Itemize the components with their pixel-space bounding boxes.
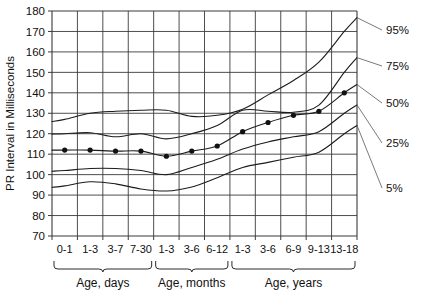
x-axis-tick-label: 6-12 — [206, 243, 228, 255]
legend-label-50pct: 50% — [386, 97, 409, 109]
y-axis-tick-label: 70 — [32, 230, 45, 242]
y-axis-tick-label: 80 — [32, 210, 45, 222]
legend-leader-line-50pct — [357, 85, 382, 103]
y-axis-tick-label: 180 — [26, 5, 45, 17]
group-label: Age, months — [158, 276, 225, 290]
y-axis-tick-label: 170 — [26, 26, 45, 38]
x-axis-tick-label: 7-30 — [130, 243, 152, 255]
legend-label-95pct: 95% — [386, 24, 409, 36]
data-point-marker — [88, 147, 93, 152]
data-point-marker — [138, 149, 143, 154]
chart-canvas: 708090100110120130140150160170180PR Inte… — [0, 0, 442, 290]
grid-lines: 708090100110120130140150160170180 — [26, 5, 357, 242]
data-point-marker — [291, 113, 296, 118]
data-point-marker — [164, 154, 169, 159]
data-point-marker — [240, 129, 245, 134]
legend-label-5pct: 5% — [386, 182, 403, 194]
x-axis-labels: 0-11-33-77-301-33-66-121-33-66-99-1313-1… — [57, 243, 359, 255]
y-axis-tick-label: 150 — [26, 67, 45, 79]
y-axis-tick-label: 160 — [26, 46, 45, 58]
y-axis-title: PR Interval in Milliseconds — [4, 56, 16, 191]
y-axis-tick-label: 140 — [26, 87, 45, 99]
group-brace — [54, 261, 152, 272]
y-axis-tick-label: 100 — [26, 169, 45, 181]
y-axis-tick-label: 120 — [26, 128, 45, 140]
group-label: Age, days — [76, 276, 129, 290]
y-axis-tick-label: 110 — [27, 148, 45, 160]
y-axis-tick-label: 90 — [32, 189, 45, 201]
legend-leader-line-25pct — [357, 105, 382, 143]
x-axis-tick-label: 3-6 — [184, 243, 200, 255]
x-axis-tick-label: 3-6 — [260, 243, 276, 255]
data-point-marker — [113, 149, 118, 154]
x-axis-tick-label: 6-9 — [286, 243, 302, 255]
data-point-marker — [215, 143, 220, 148]
legend-leader-line-75pct — [357, 58, 382, 66]
legend-leader-line-95pct — [357, 18, 382, 30]
group-brace — [156, 261, 228, 272]
axis-group-brackets: Age, daysAge, monthsAge, years — [54, 261, 355, 290]
y-axis-tick-label: 130 — [26, 107, 45, 119]
data-point-marker — [265, 120, 270, 125]
group-brace — [232, 261, 355, 272]
x-axis-tick-label: 9-13 — [308, 243, 330, 255]
data-point-marker — [62, 147, 67, 152]
x-axis-tick-label: 3-7 — [108, 243, 124, 255]
legend-label-25pct: 25% — [386, 137, 409, 149]
data-point-marker — [316, 109, 321, 114]
pr-interval-percentile-chart: 708090100110120130140150160170180PR Inte… — [0, 0, 442, 290]
percentile-legend: 95%75%50%25%5% — [357, 18, 409, 194]
data-point-marker — [189, 149, 194, 154]
x-axis-tick-label: 0-1 — [57, 243, 73, 255]
legend-label-75pct: 75% — [386, 60, 409, 72]
legend-leader-line-5pct — [357, 125, 382, 188]
group-label: Age, years — [265, 276, 322, 290]
x-axis-tick-label: 1-3 — [235, 243, 251, 255]
data-point-marker — [342, 90, 347, 95]
x-axis-tick-label: 13-18 — [330, 243, 358, 255]
x-axis-tick-label: 1-3 — [82, 243, 98, 255]
x-axis-tick-label: 1-3 — [158, 243, 174, 255]
